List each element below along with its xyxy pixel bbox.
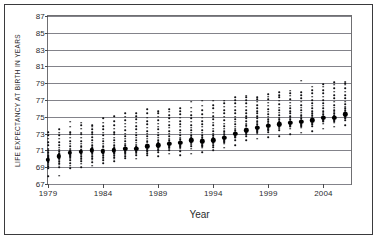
data-point — [168, 118, 170, 120]
data-point — [102, 138, 104, 140]
y-tick-mark — [45, 66, 48, 67]
data-point — [157, 126, 159, 128]
data-point — [179, 110, 181, 112]
data-point — [246, 109, 248, 111]
x-tick-label: 1984 — [94, 189, 113, 198]
data-point — [91, 140, 93, 142]
mean-marker — [343, 112, 347, 116]
mean-marker — [288, 120, 292, 124]
data-point — [323, 86, 325, 88]
data-point — [190, 114, 192, 116]
data-point — [290, 115, 292, 117]
data-point — [334, 122, 336, 124]
data-point — [257, 101, 259, 103]
data-point — [279, 114, 281, 116]
data-point — [301, 94, 303, 96]
data-point — [257, 110, 259, 112]
data-point — [323, 99, 325, 101]
data-point — [80, 155, 82, 157]
data-point — [168, 133, 170, 135]
data-point — [146, 124, 148, 126]
data-point — [69, 148, 71, 150]
data-point — [113, 140, 115, 142]
data-point — [168, 108, 170, 110]
data-point — [179, 108, 181, 110]
data-point — [301, 80, 303, 82]
data-point — [279, 129, 281, 131]
data-point — [235, 109, 237, 111]
data-point — [268, 119, 270, 121]
mean-marker — [101, 149, 105, 153]
data-point — [345, 87, 347, 89]
x-tick-mark — [268, 184, 269, 188]
data-point — [135, 142, 137, 144]
mean-marker — [233, 131, 237, 135]
data-point — [201, 120, 203, 122]
data-point — [168, 114, 170, 116]
data-point — [323, 105, 325, 107]
mean-marker — [145, 144, 149, 148]
data-point — [47, 131, 49, 133]
data-point — [168, 135, 170, 137]
data-point — [223, 113, 225, 115]
data-point — [69, 158, 71, 160]
data-point — [91, 145, 93, 147]
data-point — [157, 119, 159, 121]
data-point — [135, 140, 137, 142]
data-point — [179, 150, 181, 152]
data-point — [279, 97, 281, 99]
data-point — [323, 110, 325, 112]
data-point — [301, 127, 303, 129]
data-point — [268, 136, 270, 138]
data-point — [190, 145, 192, 147]
data-point — [268, 131, 270, 133]
data-point — [312, 89, 314, 91]
data-point — [268, 98, 270, 100]
data-point — [102, 118, 104, 120]
data-point — [102, 125, 104, 127]
data-point — [235, 113, 237, 115]
data-point — [190, 121, 192, 123]
data-point — [124, 155, 126, 157]
y-tick-mark — [45, 117, 48, 118]
data-point — [190, 129, 192, 131]
data-point — [290, 90, 292, 92]
data-point — [80, 166, 82, 168]
data-point — [235, 116, 237, 118]
data-point — [113, 161, 115, 163]
y-tick-label: 75 — [36, 112, 45, 121]
data-point — [146, 117, 148, 119]
data-point — [113, 131, 115, 133]
y-gridline — [48, 100, 351, 101]
data-point — [135, 155, 137, 157]
data-point — [135, 122, 137, 124]
data-point — [168, 111, 170, 113]
data-point — [301, 112, 303, 114]
data-point — [257, 97, 259, 99]
data-point — [334, 104, 336, 106]
y-tick-mark — [45, 83, 48, 84]
y-tick-label: 81 — [36, 62, 45, 71]
data-point — [157, 155, 159, 157]
data-point — [246, 97, 248, 99]
data-point — [157, 140, 159, 142]
y-tick-label: 85 — [36, 28, 45, 37]
data-point — [323, 92, 325, 94]
y-gridline — [48, 33, 351, 34]
data-point — [290, 105, 292, 107]
data-point — [257, 104, 259, 106]
data-point — [113, 145, 115, 147]
data-point — [212, 134, 214, 136]
mean-marker — [79, 150, 83, 154]
data-point — [345, 94, 347, 96]
data-point — [323, 96, 325, 98]
data-point — [91, 124, 93, 126]
mean-marker — [90, 148, 94, 152]
data-point — [323, 112, 325, 114]
data-point — [146, 130, 148, 132]
data-point — [290, 108, 292, 110]
x-tick-mark — [323, 184, 324, 188]
y-tick-label: 87 — [36, 12, 45, 21]
data-point — [102, 140, 104, 142]
data-point — [168, 138, 170, 140]
